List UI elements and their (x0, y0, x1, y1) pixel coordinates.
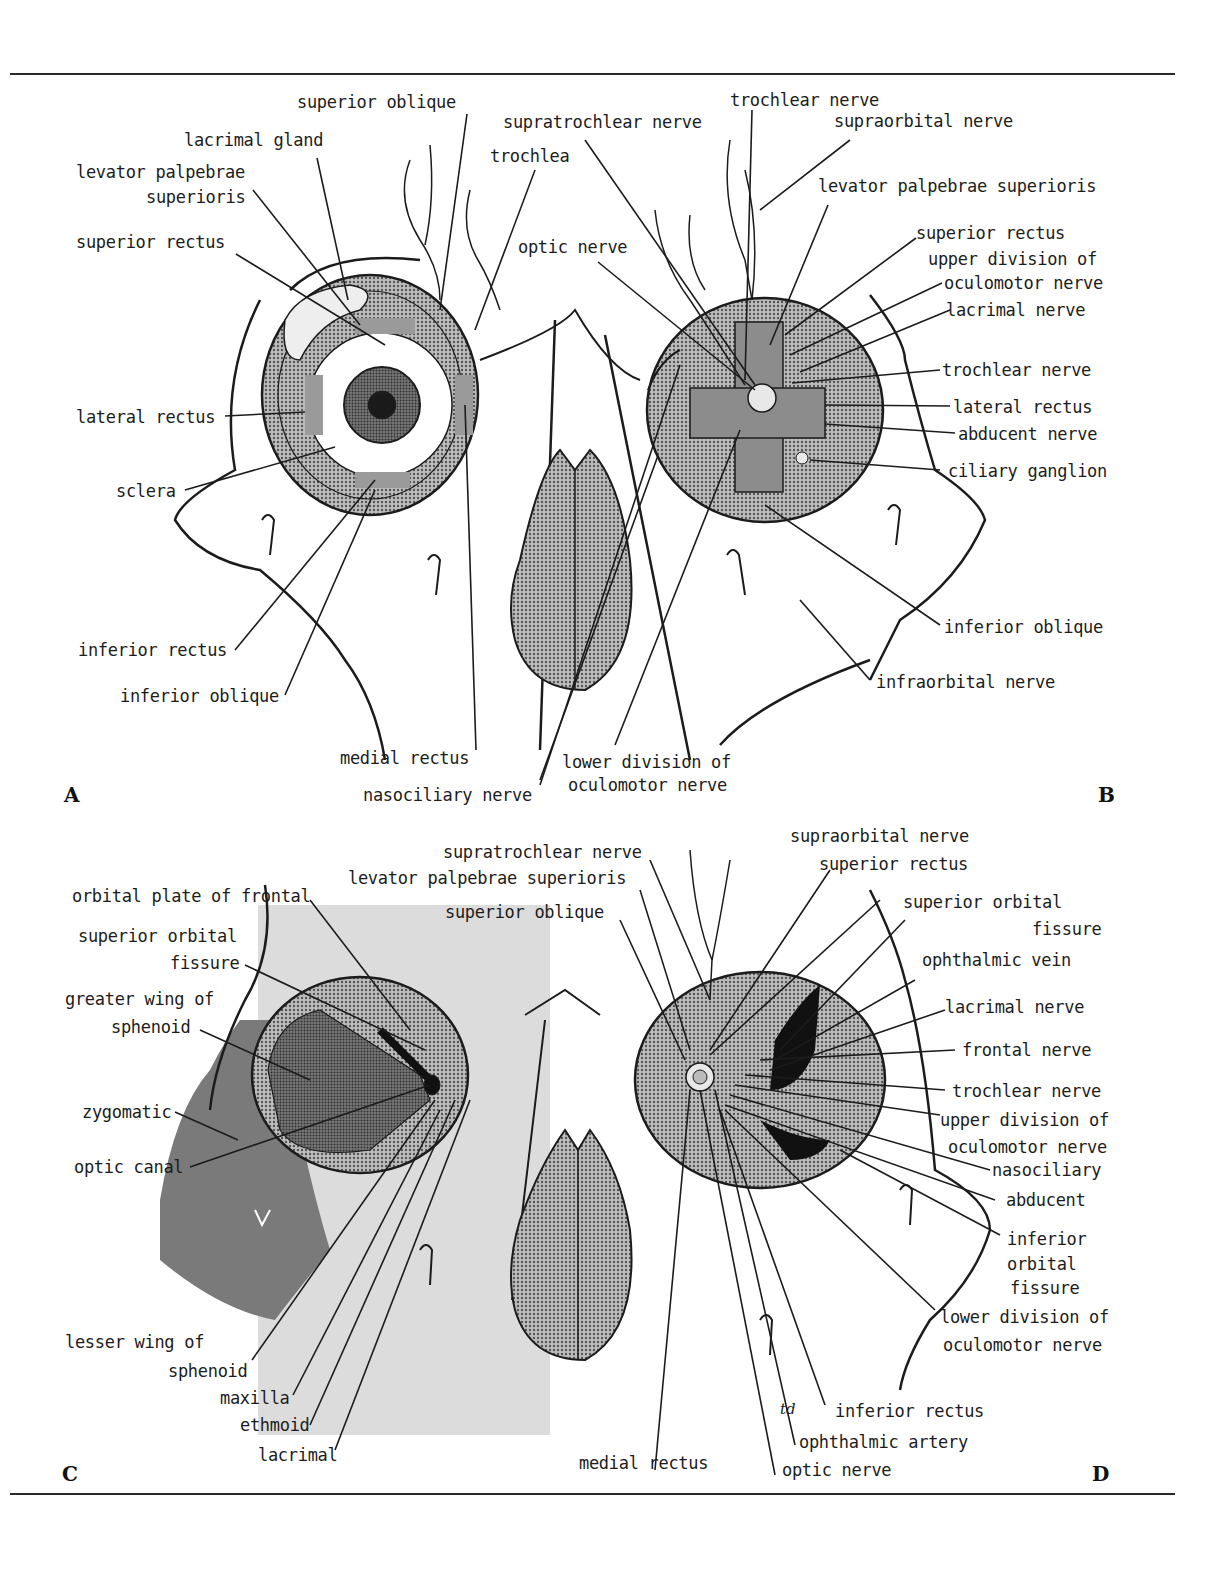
label-d-iof-2: orbital (1007, 1254, 1077, 1274)
label-d-lacrimal-nerve: lacrimal nerve (945, 997, 1084, 1017)
label-b-inferior-oblique: inferior oblique (944, 617, 1103, 637)
panel-d-art (620, 850, 1000, 1475)
label-c-orbital-plate: orbital plate of frontal (72, 886, 310, 906)
label-d-nasociliary: nasociliary (992, 1160, 1101, 1180)
label-d-supratrochlear-nerve: supratrochlear nerve (443, 842, 642, 862)
label-a-lateral-rectus: lateral rectus (76, 407, 215, 427)
label-a-inferior-oblique: inferior oblique (120, 686, 279, 706)
panel-a-art (175, 114, 700, 780)
label-b-lower-division-2: oculomotor nerve (568, 775, 727, 795)
label-b-upper-division-1: upper division of (928, 249, 1097, 269)
label-d-sof-2: fissure (1032, 919, 1102, 939)
label-b-infraorbital-nerve: infraorbital nerve (876, 672, 1055, 692)
label-d-superior-rectus: superior rectus (819, 854, 968, 874)
label-a-superior-rectus: superior rectus (76, 232, 225, 252)
label-c-zygomatic: zygomatic (82, 1102, 171, 1122)
panel-letter-b: B (1098, 783, 1115, 807)
label-b-trochlear-nerve-top: trochlear nerve (730, 90, 879, 110)
label-b-supraorbital-nerve: supraorbital nerve (834, 111, 1013, 131)
label-d-ophthalmic-vein: ophthalmic vein (922, 950, 1071, 970)
label-a-levator-1: levator palpebrae (76, 162, 245, 182)
label-d-iof-1: inferior (1007, 1229, 1086, 1249)
label-c-greater-wing-2: sphenoid (111, 1017, 190, 1037)
label-d-lower-division-2: oculomotor nerve (943, 1335, 1102, 1355)
label-a-superior-oblique: superior oblique (297, 92, 456, 112)
label-a-sclera: sclera (116, 481, 176, 501)
label-d-ophthalmic-artery: ophthalmic artery (799, 1432, 968, 1452)
label-a-trochlea: trochlea (490, 146, 569, 166)
label-c-sof-2: fissure (170, 953, 240, 973)
label-d-inferior-rectus: inferior rectus (835, 1401, 984, 1421)
label-d-levator: levator palpebrae superioris (348, 868, 626, 888)
label-b-upper-division-2: oculomotor nerve (944, 273, 1103, 293)
label-d-optic-nerve: optic nerve (782, 1460, 891, 1480)
label-d-upper-division-1: upper division of (940, 1110, 1109, 1130)
label-d-supraorbital-nerve: supraorbital nerve (790, 826, 969, 846)
label-b-supratrochlear-nerve: supratrochlear nerve (503, 112, 702, 132)
illustrator-signature: td (780, 1400, 796, 1418)
label-b-optic-nerve: optic nerve (518, 237, 627, 257)
label-b-levator: levator palpebrae superioris (818, 176, 1096, 196)
label-c-optic-canal: optic canal (74, 1157, 183, 1177)
panel-letter-d: D (1092, 1462, 1109, 1486)
label-a-lacrimal-gland: lacrimal gland (184, 130, 323, 150)
label-d-trochlear-nerve: trochlear nerve (952, 1081, 1101, 1101)
label-d-abducent: abducent (1006, 1190, 1085, 1210)
label-c-lesser-wing-1: lesser wing of (65, 1332, 204, 1352)
label-d-lower-division-1: lower division of (940, 1307, 1109, 1327)
label-b-superior-rectus: superior rectus (916, 223, 1065, 243)
panel-letter-a: A (64, 783, 80, 807)
label-c-maxilla: maxilla (220, 1388, 290, 1408)
panel-letter-c: C (62, 1462, 78, 1486)
label-d-frontal-nerve: frontal nerve (962, 1040, 1091, 1060)
label-b-lacrimal-nerve: lacrimal nerve (946, 300, 1085, 320)
label-c-lesser-wing-2: sphenoid (168, 1361, 247, 1381)
label-d-sof-1: superior orbital (903, 892, 1062, 912)
label-a-inferior-rectus: inferior rectus (78, 640, 227, 660)
label-b-abducent-nerve: abducent nerve (958, 424, 1097, 444)
label-c-lacrimal: lacrimal (258, 1445, 337, 1465)
label-d-iof-3: fissure (1010, 1278, 1080, 1298)
label-a-nasociliary-nerve: nasociliary nerve (363, 785, 532, 805)
label-a-medial-rectus: medial rectus (340, 748, 469, 768)
label-a-levator-2: superioris (146, 187, 245, 207)
label-c-sof-1: superior orbital (78, 926, 237, 946)
label-d-upper-division-2: oculomotor nerve (948, 1137, 1107, 1157)
label-b-lateral-rectus: lateral rectus (953, 397, 1092, 417)
label-d-medial-rectus: medial rectus (579, 1453, 708, 1473)
label-b-ciliary-ganglion: ciliary ganglion (948, 461, 1107, 481)
label-d-superior-oblique: superior oblique (445, 902, 604, 922)
label-c-greater-wing-1: greater wing of (65, 989, 214, 1009)
label-b-trochlear-nerve: trochlear nerve (942, 360, 1091, 380)
label-b-lower-division-1: lower division of (562, 752, 731, 772)
label-c-ethmoid: ethmoid (240, 1415, 310, 1435)
